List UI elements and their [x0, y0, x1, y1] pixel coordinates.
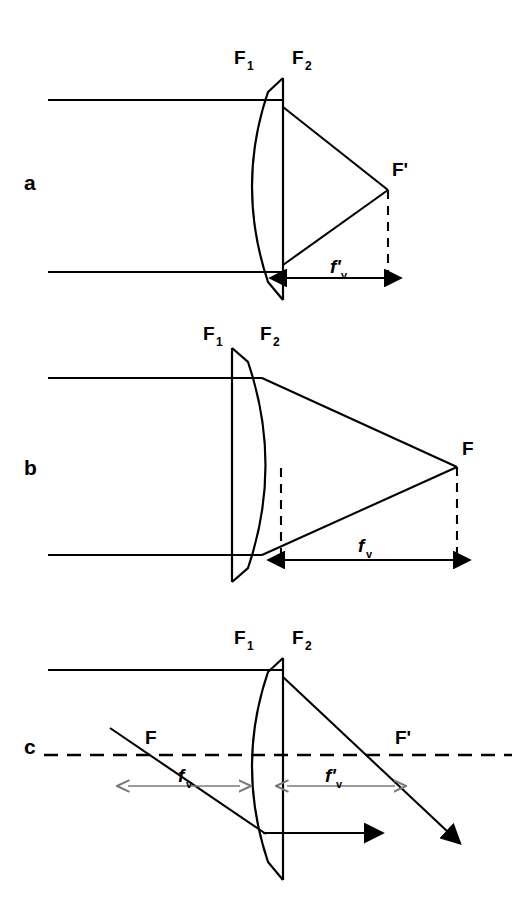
panel-a-F2-base: F	[292, 47, 304, 68]
panel-a-fv-sub: v	[341, 269, 348, 281]
panel-c-letter: c	[24, 735, 36, 758]
panel-c-label-F2: F 2	[292, 627, 312, 653]
panel-c-fv-base: f	[178, 765, 186, 786]
panel-a-converging-ray-top	[283, 107, 388, 190]
panel-c-F1-base: F	[234, 627, 246, 648]
panel-b-fv-base: f	[358, 535, 366, 556]
panel-b-label-F2: F 2	[260, 323, 280, 349]
panel-a: a F 1 F	[0, 0, 530, 320]
panel-b-F2-base: F	[260, 323, 272, 344]
panel-b-label-F1: F 1	[203, 323, 223, 349]
panel-c-front-focal-point-label: F	[145, 727, 157, 748]
panel-c-rear-focal-point-label: F'	[395, 727, 411, 748]
panel-b-focal-length-label: f v	[358, 535, 373, 560]
panel-a-focal-point-label: F'	[392, 159, 408, 180]
panel-c-F2-sub: 2	[305, 639, 312, 653]
panel-c-lens-convex-surface	[252, 658, 283, 880]
optics-figure: a F 1 F	[0, 0, 530, 909]
panel-b: b F 1	[0, 320, 530, 620]
panel-a-lens-convex-surface	[252, 78, 283, 300]
panel-c: c F 1 F 2 F F' f	[0, 620, 530, 909]
panel-a-F1-sub: 1	[247, 59, 254, 73]
panel-b-lens-convex-surface	[232, 348, 266, 582]
panel-b-focal-point-label: F	[462, 438, 474, 459]
panel-b-converging-ray-top	[262, 378, 457, 467]
panel-c-fv-sub: v	[186, 778, 193, 790]
panel-c-label-F1: F 1	[234, 627, 254, 653]
panel-b-F2-sub: 2	[273, 335, 280, 349]
panel-b-F1-sub: 1	[216, 335, 223, 349]
panel-b-fv-sub: v	[366, 548, 373, 560]
panel-a-label-F1: F 1	[234, 47, 254, 73]
panel-c-F2-base: F	[292, 627, 304, 648]
panel-c-fvp-sub: v	[336, 778, 343, 790]
panel-b-F1-base: F	[203, 323, 215, 344]
panel-a-letter: a	[24, 171, 36, 194]
panel-a-label-F2: F 2	[292, 47, 312, 73]
panel-a-F1-base: F	[234, 47, 246, 68]
panel-a-converging-ray-bottom	[283, 190, 388, 265]
panel-c-F1-sub: 1	[247, 639, 254, 653]
panel-b-letter: b	[24, 456, 37, 479]
panel-a-F2-sub: 2	[305, 59, 312, 73]
